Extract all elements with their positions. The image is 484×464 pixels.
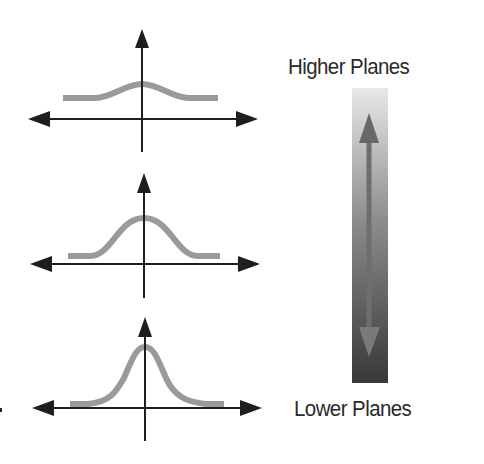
higher-planes-label: Higher Planes bbox=[288, 56, 409, 78]
x-axis-right-arrow-icon bbox=[236, 111, 258, 127]
y-axis-arrow-icon bbox=[138, 317, 152, 337]
x-axis-left-arrow-icon bbox=[30, 256, 52, 272]
y-axis-arrow-icon bbox=[137, 173, 151, 193]
planes-scale bbox=[352, 88, 388, 383]
x-axis-left-arrow-icon bbox=[28, 111, 50, 127]
x-axis-right-arrow-icon bbox=[240, 400, 262, 416]
distribution-curve-peaked bbox=[70, 347, 224, 404]
scan-artifact bbox=[0, 408, 2, 412]
planes-diagram bbox=[0, 0, 484, 464]
plot-medium-distribution bbox=[30, 173, 260, 298]
plot-peaked-distribution bbox=[32, 317, 262, 441]
distribution-curve-flat bbox=[63, 84, 218, 98]
plot-flat-distribution bbox=[28, 29, 258, 152]
x-axis-left-arrow-icon bbox=[32, 400, 54, 416]
x-axis-right-arrow-icon bbox=[238, 256, 260, 272]
y-axis-arrow-icon bbox=[135, 29, 149, 48]
lower-planes-label: Lower Planes bbox=[294, 398, 411, 420]
